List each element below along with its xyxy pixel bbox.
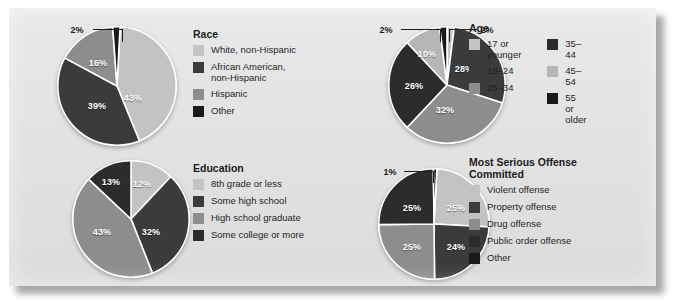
legend-offense-swatch-icon-4 — [469, 253, 480, 264]
legend-age-col1-label-2: 25–34 — [487, 82, 513, 93]
legend-race-label-3: Other — [211, 105, 235, 116]
pie-age-label-55-or-older: 2% — [379, 25, 392, 35]
legend-race-swatch-icon-2 — [193, 89, 204, 100]
legend-education-label-0: 8th grade or less — [211, 178, 282, 189]
legend-title-race: Race — [193, 28, 311, 40]
callout-line-age-left-h — [401, 29, 441, 30]
charts-panel: 43% 39% 16% 2% Race White, non-HispanicA… — [9, 8, 656, 286]
pie-offense-label-public-order: 25% — [403, 203, 421, 213]
legend-age-col2-label-0: 35–44 — [565, 38, 586, 60]
callout-line-age-right-v — [449, 29, 450, 42]
legend-education-swatch-icon-3 — [193, 230, 204, 241]
pie-race-label-white: 43% — [124, 93, 142, 103]
callout-line-offense-v — [433, 171, 434, 183]
legend-items-age-col2: 35–4445–5455 or older — [547, 38, 586, 130]
pie-offense-label-drug: 25% — [403, 242, 421, 252]
pie-education-label-some-high-school: 32% — [142, 227, 160, 237]
legend-items-race: White, non-HispanicAfrican American, non… — [193, 44, 311, 117]
legend-offense-label-1: Property offense — [487, 201, 557, 212]
pie-offense-label-other: 1% — [383, 167, 396, 177]
legend-offense-label-2: Drug offense — [487, 218, 541, 229]
legend-race-swatch-icon-0 — [193, 45, 204, 56]
legend-age-col1-swatch-icon-0 — [469, 39, 480, 50]
legend-title-age: Age — [469, 22, 586, 34]
legend-age-col2-label-2: 55 or older — [565, 92, 586, 125]
legend-offense-item-2[interactable]: Drug offense — [469, 218, 629, 230]
legend-offense-swatch-icon-0 — [469, 185, 480, 196]
legend-title-education: Education — [193, 162, 333, 174]
legend-education-swatch-icon-0 — [193, 179, 204, 190]
legend-race-item-0[interactable]: White, non-Hispanic — [193, 44, 311, 56]
legend-offense-label-0: Violent offense — [487, 184, 550, 195]
legend-age-col2-swatch-icon-1 — [547, 66, 558, 77]
pie-chart-education: 12% 32% 43% 13% — [72, 160, 190, 278]
pie-education-svg — [72, 160, 190, 278]
legend-race-swatch-icon-3 — [193, 106, 204, 117]
legend-offense-swatch-icon-1 — [469, 202, 480, 213]
callout-line-age-left-v — [440, 29, 441, 42]
figure-root: 43% 39% 16% 2% Race White, non-HispanicA… — [0, 0, 675, 304]
pie-race-label-african-american: 39% — [88, 101, 106, 111]
legend-offense-label-3: Public order offense — [487, 235, 571, 246]
legend-items-age-col1: 17 or younger18–2425–34 — [469, 38, 521, 130]
legend-education-swatch-icon-1 — [193, 196, 204, 207]
legend-age-col1-swatch-icon-1 — [469, 66, 480, 77]
legend-education-item-0[interactable]: 8th grade or less — [193, 178, 333, 190]
legend-age-col2-item-2[interactable]: 55 or older — [547, 92, 586, 125]
legend-race-label-1: African American, non-Hispanic — [211, 61, 285, 83]
legend-age-col1-swatch-icon-2 — [469, 83, 480, 94]
legend-age-col1-item-2[interactable]: 25–34 — [469, 82, 521, 94]
pie-education-label-8th-grade: 12% — [133, 179, 151, 189]
pie-race-label-other: 2% — [70, 25, 83, 35]
legend-race-item-3[interactable]: Other — [193, 105, 311, 117]
legend-columns-age: 17 or younger18–2425–34 35–4445–5455 or … — [469, 38, 586, 130]
legend-race-item-2[interactable]: Hispanic — [193, 88, 311, 100]
legend-age-col1-label-0: 17 or younger — [487, 38, 521, 60]
legend-offense-item-0[interactable]: Violent offense — [469, 184, 629, 196]
pie-age-label-35-44: 26% — [405, 81, 423, 91]
callout-line-race-h — [93, 29, 123, 30]
legend-education-item-2[interactable]: High school graduate — [193, 212, 333, 224]
legend-age-col1-item-1[interactable]: 18–24 — [469, 65, 521, 77]
legend-education: Education 8th grade or lessSome high sch… — [193, 162, 333, 246]
pie-age-label-25-34: 32% — [436, 105, 454, 115]
legend-offense-swatch-icon-2 — [469, 219, 480, 230]
pie-education-label-some-college: 13% — [102, 177, 120, 187]
legend-offense-item-4[interactable]: Other — [469, 252, 629, 264]
pie-education-label-hs-graduate: 43% — [93, 227, 111, 237]
callout-line-race-v — [122, 29, 123, 42]
pie-age-label-45-54: 10% — [418, 49, 436, 59]
legend-education-label-1: Some high school — [211, 195, 287, 206]
legend-education-item-1[interactable]: Some high school — [193, 195, 333, 207]
pie-offense-label-violent: 25% — [447, 203, 465, 213]
pie-race-disc — [57, 26, 177, 146]
legend-age-col2-item-0[interactable]: 35–44 — [547, 38, 586, 60]
legend-age-col1-item-0[interactable]: 17 or younger — [469, 38, 521, 60]
legend-age: Age 17 or younger18–2425–34 35–4445–5455… — [469, 22, 586, 130]
legend-age-col2-label-1: 45–54 — [565, 65, 586, 87]
legend-items-offense: Violent offenseProperty offenseDrug offe… — [469, 184, 629, 264]
legend-education-item-3[interactable]: Some college or more — [193, 229, 333, 241]
legend-age-col2-swatch-icon-0 — [547, 39, 558, 50]
pie-chart-race: 43% 39% 16% — [57, 26, 177, 146]
pie-offense-label-property: 24% — [447, 242, 465, 252]
legend-offense: Most Serious Offense Committed Violent o… — [469, 156, 629, 269]
legend-offense-item-3[interactable]: Public order offense — [469, 235, 629, 247]
legend-title-offense: Most Serious Offense Committed — [469, 156, 629, 180]
legend-age-col2-swatch-icon-2 — [547, 93, 558, 104]
callout-line-offense-h — [404, 171, 434, 172]
legend-offense-item-1[interactable]: Property offense — [469, 201, 629, 213]
legend-education-swatch-icon-2 — [193, 213, 204, 224]
legend-race-label-2: Hispanic — [211, 88, 247, 99]
pie-race-label-hispanic: 16% — [89, 58, 107, 68]
legend-offense-label-4: Other — [487, 252, 511, 263]
pie-education-disc — [72, 160, 190, 278]
legend-items-education: 8th grade or lessSome high schoolHigh sc… — [193, 178, 333, 241]
legend-race-swatch-icon-1 — [193, 62, 204, 73]
legend-education-label-2: High school graduate — [211, 212, 301, 223]
legend-race-item-1[interactable]: African American, non-Hispanic — [193, 61, 311, 83]
legend-age-col2-item-1[interactable]: 45–54 — [547, 65, 586, 87]
pie-race-svg — [57, 26, 177, 146]
legend-race-label-0: White, non-Hispanic — [211, 44, 296, 55]
legend-race: Race White, non-HispanicAfrican American… — [193, 28, 311, 122]
